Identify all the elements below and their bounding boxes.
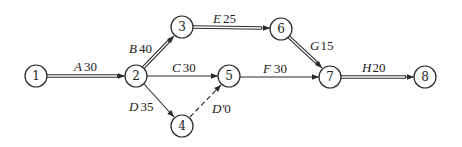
- label-e: E25: [212, 11, 236, 26]
- node-6: 6: [270, 18, 292, 40]
- label-d: D35: [128, 99, 153, 114]
- svg-text:3: 3: [178, 20, 186, 34]
- svg-text:7: 7: [326, 70, 334, 84]
- svg-text:4: 4: [178, 119, 186, 133]
- label-h: H20: [361, 60, 385, 75]
- node-2: 2: [125, 65, 147, 87]
- node-7: 7: [319, 66, 341, 88]
- edge-e: [193, 27, 270, 28]
- svg-text:1: 1: [32, 69, 40, 83]
- node-8: 8: [414, 66, 436, 88]
- label-d-prime: D'0: [211, 101, 231, 116]
- label-b: B40: [129, 41, 152, 56]
- svg-text:5: 5: [225, 69, 233, 83]
- label-g: G15: [310, 38, 333, 53]
- network-diagram: A30 B40 C30 D35 D'0 E25 F30 G15 H20 1 2 …: [0, 0, 462, 147]
- label-a: A30: [73, 59, 97, 74]
- label-c: C30: [172, 60, 196, 75]
- node-3: 3: [171, 16, 193, 38]
- svg-text:6: 6: [277, 22, 285, 36]
- svg-text:2: 2: [132, 69, 140, 83]
- label-f: F30: [262, 61, 287, 76]
- node-4: 4: [171, 115, 193, 137]
- svg-text:8: 8: [421, 70, 429, 84]
- node-1: 1: [25, 65, 47, 87]
- node-5: 5: [218, 65, 240, 87]
